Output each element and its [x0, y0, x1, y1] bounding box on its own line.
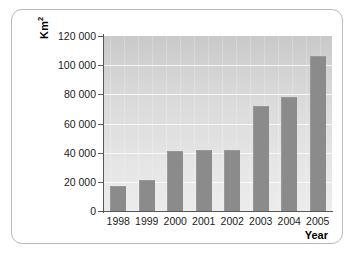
x-axis-title: Year — [305, 229, 328, 241]
plot-area — [104, 36, 332, 211]
gridline-40000 — [104, 153, 332, 154]
x-axis-line — [103, 211, 333, 212]
x-tick-label: 2004 — [275, 215, 304, 231]
x-tick-label: 1999 — [133, 215, 162, 231]
y-tick-label: 0 — [32, 206, 96, 216]
y-tick-label: 60 000 — [32, 119, 96, 129]
x-tick-label: 2001 — [190, 215, 219, 231]
y-tick-label: 80 000 — [32, 89, 96, 99]
bar-2000[interactable] — [167, 151, 183, 211]
y-axis-tick-labels: 120 000 100 000 80 000 60 000 40 000 20 … — [26, 10, 96, 245]
y-tick-label: 40 000 — [32, 148, 96, 158]
y-tick-label: 20 000 — [32, 177, 96, 187]
y-axis-line — [103, 34, 104, 213]
bar-2003[interactable] — [253, 106, 269, 211]
x-tick-label: 2003 — [247, 215, 276, 231]
x-axis-tick-labels: 1998 1999 2000 2001 2002 2003 2004 2005 — [104, 215, 332, 231]
y-tick-label: 120 000 — [32, 31, 96, 41]
chart-frame: Km2 120 000 100 000 80 000 60 000 40 000… — [11, 9, 343, 244]
gridline-60000 — [104, 124, 332, 125]
x-tick-label: 2000 — [161, 215, 190, 231]
bar-2002[interactable] — [224, 150, 240, 211]
bar-1998[interactable] — [110, 186, 126, 211]
gridline-80000 — [104, 94, 332, 95]
bar-2005[interactable] — [310, 56, 326, 211]
x-tick-label: 1998 — [104, 215, 133, 231]
bar-2004[interactable] — [281, 97, 297, 211]
y-tick-label: 100 000 — [32, 60, 96, 70]
gridline-100000 — [104, 65, 332, 66]
x-tick-label: 2002 — [218, 215, 247, 231]
bar-2001[interactable] — [196, 150, 212, 211]
bar-1999[interactable] — [139, 180, 155, 211]
